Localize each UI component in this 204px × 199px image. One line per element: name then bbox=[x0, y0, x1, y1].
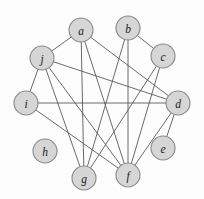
graph-node-h[interactable]: h bbox=[33, 139, 57, 163]
graph-node-f[interactable]: f bbox=[116, 163, 140, 187]
node-circle-d bbox=[166, 91, 190, 115]
graph-edge-d-j bbox=[53, 62, 166, 99]
graph-node-i[interactable]: i bbox=[14, 91, 38, 115]
graph-node-d[interactable]: d bbox=[166, 91, 190, 115]
graph-node-g[interactable]: g bbox=[72, 166, 96, 190]
node-circle-h bbox=[33, 139, 57, 163]
node-circle-i bbox=[14, 91, 38, 115]
graph-edge-j-f bbox=[49, 68, 121, 166]
graph-node-b[interactable]: b bbox=[116, 16, 140, 40]
graph-edge-i-j bbox=[30, 69, 38, 91]
graph-edge-b-c bbox=[137, 36, 153, 49]
graph-node-j[interactable]: j bbox=[30, 46, 54, 70]
node-circle-b bbox=[116, 16, 140, 40]
node-circle-c bbox=[151, 44, 175, 68]
graph-figure: abcdefghij bbox=[0, 0, 204, 199]
graph-node-a[interactable]: a bbox=[69, 18, 93, 42]
node-circle-g bbox=[72, 166, 96, 190]
graph-edge-c-g bbox=[91, 66, 157, 168]
graph-canvas: abcdefghij bbox=[0, 0, 204, 199]
graph-node-e[interactable]: e bbox=[151, 136, 175, 160]
graph-node-c[interactable]: c bbox=[151, 44, 175, 68]
node-circle-e bbox=[151, 136, 175, 160]
graph-edge-a-j bbox=[52, 37, 72, 51]
node-circle-a bbox=[69, 18, 93, 42]
graph-edge-a-g bbox=[81, 42, 84, 166]
node-circle-f bbox=[116, 163, 140, 187]
node-circle-j bbox=[30, 46, 54, 70]
